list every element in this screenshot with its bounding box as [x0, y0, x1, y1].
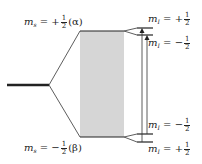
- split-line-up: [49, 31, 80, 85]
- label-ms-beta: ms = −12(β): [24, 141, 82, 156]
- energy-gap-band: [80, 31, 124, 137]
- hyperfine-split-top-b: [124, 31, 137, 35]
- label-mi-lower-bottom: mI = +12: [148, 142, 191, 157]
- hyperfine-split-bottom-a: [124, 134, 137, 137]
- hyperfine-split-top-a: [124, 28, 137, 31]
- label-mi-upper-top: mI = +12: [148, 12, 191, 27]
- split-line-down: [49, 85, 80, 137]
- label-ms-alpha: ms = +12(α): [24, 15, 83, 30]
- arrowhead-1: [140, 28, 145, 33]
- label-mi-upper-bottom: mI = −12: [148, 36, 191, 51]
- label-mi-lower-top: mI = −12: [148, 118, 191, 133]
- hyperfine-split-bottom-b: [124, 137, 137, 142]
